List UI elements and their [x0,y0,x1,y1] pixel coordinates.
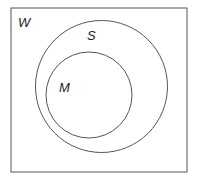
set-m-label: M [59,80,70,95]
set-m-circle [46,52,132,138]
venn-diagram: W S M [0,0,198,179]
set-s-label: S [87,28,96,43]
set-s-circle [36,21,168,153]
universe-label: W [18,15,32,30]
universe-rectangle [11,8,187,172]
